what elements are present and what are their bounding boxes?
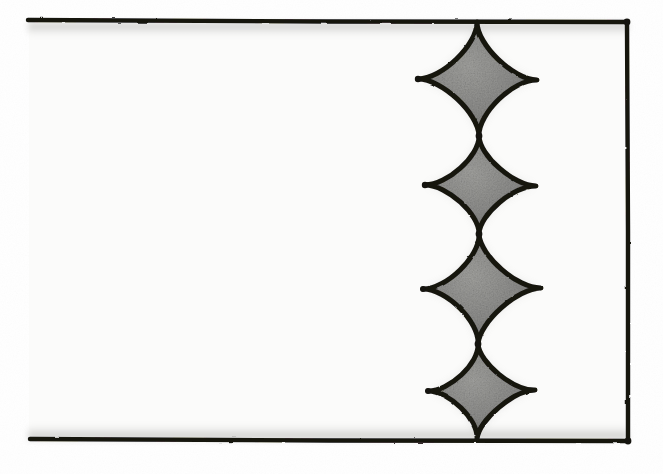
frame-top-rule bbox=[28, 20, 627, 22]
frame-bottom-rule bbox=[30, 439, 628, 441]
sketch-canvas: Hand-drawn pencil sketch graphite pencil… bbox=[0, 0, 663, 474]
corner-bottom-right-node bbox=[625, 438, 632, 445]
junction-1-2-node bbox=[476, 133, 483, 140]
astroid-2-left-tip bbox=[422, 182, 428, 188]
junction-2-3-node bbox=[476, 231, 483, 238]
astroid-1-left-tip bbox=[415, 76, 421, 82]
pencil-sketch-drawing bbox=[0, 0, 663, 474]
junction-3-4-node bbox=[475, 341, 482, 348]
corner-top-right-node bbox=[624, 19, 631, 26]
rectangle-interior-tint bbox=[29, 21, 627, 440]
astroid-4-left-tip bbox=[425, 388, 431, 394]
astroid-3-left-tip bbox=[420, 286, 426, 292]
top-smudge-band bbox=[28, 23, 628, 38]
bottom-smudge-band bbox=[28, 423, 628, 439]
frame-right-rule bbox=[627, 22, 628, 441]
